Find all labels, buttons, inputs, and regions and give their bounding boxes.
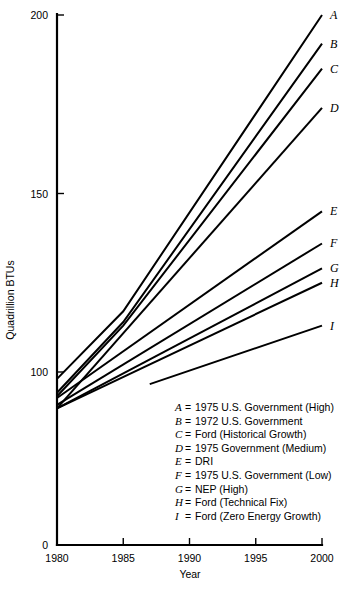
- legend-label-A: 1975 U.S. Government (High): [195, 401, 334, 413]
- legend-label-I: Ford (Zero Energy Growth): [195, 510, 321, 522]
- y-axis-title: Quadrillion BTUs: [4, 260, 16, 339]
- x-axis-title: Year: [179, 568, 201, 580]
- legend-key-A: A: [174, 401, 182, 413]
- legend-equals-I: =: [185, 510, 191, 522]
- legend-equals-C: =: [185, 428, 191, 440]
- legend-equals-F: =: [185, 469, 191, 481]
- legend-key-B: B: [175, 415, 182, 427]
- series-end-label-D: D: [329, 101, 339, 115]
- legend-equals-D: =: [185, 442, 191, 454]
- legend-key-D: D: [174, 442, 183, 454]
- x-tick-label-1980: 1980: [45, 552, 69, 564]
- legend-key-H: H: [174, 496, 184, 508]
- series-end-label-C: C: [330, 62, 339, 76]
- legend-label-C: Ford (Historical Growth): [195, 428, 306, 440]
- x-tick-label-2000: 2000: [310, 552, 334, 564]
- line-chart: 0100150200 19801985199019952000 ABCDEFGH…: [0, 0, 354, 593]
- legend-key-E: E: [174, 455, 182, 467]
- legend-label-E: DRI: [195, 455, 213, 467]
- series-end-label-B: B: [330, 37, 338, 51]
- x-tick-label-1995: 1995: [244, 552, 268, 564]
- legend-key-G: G: [175, 483, 183, 495]
- series-end-label-H: H: [329, 276, 340, 290]
- series-end-label-A: A: [329, 8, 338, 22]
- legend-label-H: Ford (Technical Fix): [195, 496, 287, 508]
- legend-equals-A: =: [185, 401, 191, 413]
- legend-label-G: NEP (High): [195, 483, 248, 495]
- legend-label-B: 1972 U.S. Government: [195, 415, 302, 427]
- legend-label-F: 1975 U.S. Government (Low): [195, 469, 332, 481]
- y-tick-label-100: 100: [30, 366, 48, 378]
- legend-key-C: C: [175, 428, 183, 440]
- series-end-label-G: G: [330, 261, 339, 275]
- series-end-label-F: F: [329, 236, 338, 250]
- x-tick-label-1990: 1990: [178, 552, 202, 564]
- legend-label-D: 1975 Government (Medium): [195, 442, 326, 454]
- legend-equals-G: =: [185, 483, 191, 495]
- y-tick-label-0: 0: [42, 539, 48, 551]
- legend-equals-B: =: [185, 415, 191, 427]
- series-end-label-E: E: [329, 204, 338, 218]
- legend-key-F: F: [174, 469, 182, 481]
- x-tick-label-1985: 1985: [112, 552, 136, 564]
- legend-equals-H: =: [185, 496, 191, 508]
- legend-equals-E: =: [185, 455, 191, 467]
- y-tick-label-150: 150: [30, 188, 48, 200]
- chart-container: 0100150200 19801985199019952000 ABCDEFGH…: [0, 0, 354, 593]
- y-tick-label-200: 200: [30, 9, 48, 21]
